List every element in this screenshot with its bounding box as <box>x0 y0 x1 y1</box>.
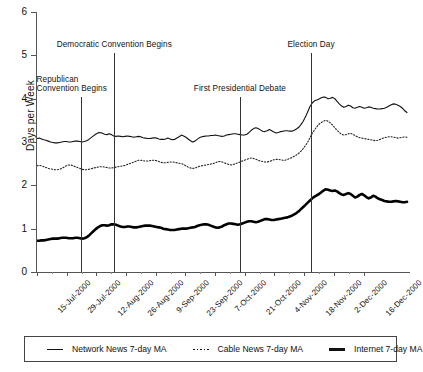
series-line-0 <box>37 97 407 143</box>
y-axis-title: Days per Week <box>25 56 36 176</box>
x-tick-3 <box>126 272 127 276</box>
series-lines <box>36 12 410 272</box>
x-tick-10 <box>334 272 335 276</box>
y-tick-0 <box>31 272 36 273</box>
x-tick-minor-1 <box>82 272 83 274</box>
x-tick-minor-4 <box>171 272 172 274</box>
annotation-label-2: First Presidential Debate <box>194 84 286 94</box>
legend-item-cable: Cable News 7-day MA <box>193 344 304 354</box>
x-axis-line <box>36 272 410 273</box>
y-tick-label-1: 1 <box>3 224 27 234</box>
annotation-label-3: Election Day <box>288 40 335 50</box>
y-tick-5 <box>31 55 36 56</box>
plot-area: 0123456 RepublicanConvention BeginsDemoc… <box>36 12 410 272</box>
legend-label-network: Network News 7-day MA <box>72 344 167 354</box>
annotation-label-line1-3: Election Day <box>288 40 335 50</box>
x-tick-0 <box>37 272 38 276</box>
y-tick-1 <box>31 229 36 230</box>
y-tick-label-4: 4 <box>3 94 27 104</box>
x-tick-minor-6 <box>230 272 231 274</box>
annotation-label-1: Democratic Convention Begins <box>57 40 172 50</box>
x-tick-6 <box>215 272 216 276</box>
legend-label-internet: Internet 7-day MA <box>354 344 422 354</box>
x-tick-minor-9 <box>319 272 320 274</box>
x-tick-minor-10 <box>349 272 350 274</box>
y-tick-label-2: 2 <box>3 180 27 190</box>
x-tick-9 <box>304 272 305 276</box>
y-tick-2 <box>31 185 36 186</box>
legend-item-network: Network News 7-day MA <box>47 344 167 354</box>
y-tick-label-3: 3 <box>3 137 27 147</box>
x-tick-5 <box>185 272 186 276</box>
y-axis-line <box>36 12 37 272</box>
y-tick-4 <box>31 99 36 100</box>
annotation-label-line1-0: Republican <box>37 75 107 85</box>
x-tick-minor-0 <box>52 272 53 274</box>
annotation-label-line2-0: Convention Begins <box>37 84 107 94</box>
x-tick-7 <box>245 272 246 276</box>
annotation-line-0 <box>81 97 82 272</box>
chart-legend: Network News 7-day MA Cable News 7-day M… <box>24 336 397 362</box>
annotation-label-0: RepublicanConvention Begins <box>37 75 107 94</box>
x-tick-4 <box>156 272 157 276</box>
x-tick-11 <box>364 272 365 276</box>
y-tick-3 <box>31 142 36 143</box>
series-line-2 <box>37 189 407 241</box>
x-tick-8 <box>274 272 275 276</box>
legend-label-cable: Cable News 7-day MA <box>218 344 304 354</box>
y-tick-label-6: 6 <box>3 7 27 17</box>
thick-line-swatch-icon <box>329 346 345 352</box>
dotted-line-swatch-icon <box>193 346 209 352</box>
legend-item-internet: Internet 7-day MA <box>329 344 422 354</box>
x-tick-minor-3 <box>141 272 142 274</box>
x-tick-1 <box>67 272 68 276</box>
x-tick-minor-2 <box>111 272 112 274</box>
y-tick-label-5: 5 <box>3 50 27 60</box>
y-tick-label-0: 0 <box>3 267 27 277</box>
annotation-line-1 <box>114 53 115 272</box>
series-line-1 <box>37 120 407 169</box>
thin-line-swatch-icon <box>47 346 63 352</box>
x-tick-minor-7 <box>260 272 261 274</box>
annotation-line-3 <box>311 53 312 272</box>
x-tick-2 <box>96 272 97 276</box>
annotation-label-line1-1: Democratic Convention Begins <box>57 40 172 50</box>
annotation-line-2 <box>240 97 241 272</box>
x-tick-minor-8 <box>289 272 290 274</box>
annotation-label-line1-2: First Presidential Debate <box>194 84 286 94</box>
y-tick-6 <box>31 12 36 13</box>
x-tick-minor-5 <box>200 272 201 274</box>
